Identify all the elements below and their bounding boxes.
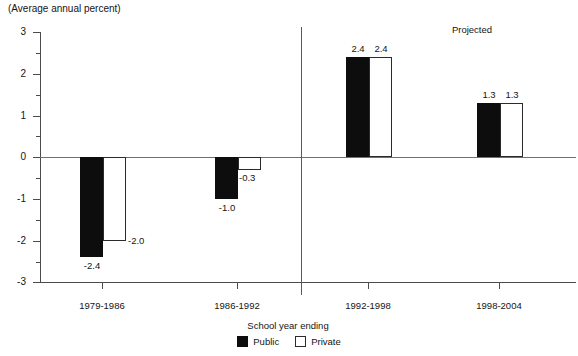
- y-tick-neg2: [33, 241, 40, 242]
- value-label-private-1992-1998: 2.4: [363, 43, 399, 54]
- bar-public-1992-1998[interactable]: [346, 57, 369, 157]
- y-tick-label-1: 1: [8, 110, 26, 121]
- y-tick-label-0: 0: [8, 151, 26, 162]
- x-tick-label-1986-1992: 1986-1992: [197, 300, 277, 311]
- x-tick-label-1979-1986: 1979-1986: [62, 300, 142, 311]
- y-tick-minor-0p5: [36, 136, 40, 137]
- y-tick-minor-neg0p5: [36, 178, 40, 179]
- y-tick-minor-1p5: [36, 95, 40, 96]
- chart-legend: Public Private: [0, 336, 578, 347]
- bar-public-1998-2004[interactable]: [477, 103, 500, 157]
- bar-private-1998-2004[interactable]: [500, 103, 523, 157]
- y-tick-neg3: [33, 282, 40, 283]
- chart-figure: (Average annual percent) 3 2 1 0 -1 -2 -…: [0, 0, 578, 356]
- y-tick-0: [33, 157, 40, 158]
- legend-label-private: Private: [311, 336, 341, 347]
- bar-private-1992-1998[interactable]: [369, 57, 392, 157]
- bar-private-1986-1992[interactable]: [238, 157, 261, 170]
- y-tick-3: [33, 32, 40, 33]
- y-tick-minor-neg2p5: [36, 262, 40, 263]
- x-tick-label-1992-1998: 1992-1998: [328, 300, 408, 311]
- y-tick-label-2: 2: [8, 68, 26, 79]
- y-tick-label-3: 3: [8, 26, 26, 37]
- plot-area: 3 2 1 0 -1 -2 -3 Projected -2.4 -2.0 -1.…: [0, 0, 578, 356]
- x-axis-title: School year ending: [228, 320, 348, 331]
- y-tick-2: [33, 74, 40, 75]
- y-tick-neg1: [33, 199, 40, 200]
- x-tick-1986-1992: [237, 283, 238, 289]
- y-tick-label-neg3: -3: [8, 276, 26, 287]
- projected-label: Projected: [440, 24, 504, 35]
- x-axis-line: [40, 282, 576, 283]
- bar-public-1986-1992[interactable]: [215, 157, 238, 199]
- y-tick-minor-neg1p5: [36, 220, 40, 221]
- y-tick-minor-2p5: [36, 53, 40, 54]
- value-label-public-1986-1992: -1.0: [209, 202, 245, 213]
- legend-label-public: Public: [253, 336, 279, 347]
- x-tick-1998-2004: [499, 283, 500, 289]
- x-tick-1979-1986: [102, 283, 103, 289]
- legend-item-public[interactable]: Public: [237, 336, 279, 347]
- value-label-private-1986-1992: -0.3: [239, 172, 269, 183]
- bar-public-1979-1986[interactable]: [80, 157, 103, 257]
- x-tick-1992-1998: [368, 283, 369, 289]
- legend-swatch-public-icon: [237, 336, 248, 347]
- projected-divider: [301, 27, 302, 295]
- y-tick-1: [33, 116, 40, 117]
- value-label-private-1998-2004: 1.3: [494, 89, 530, 100]
- legend-item-private[interactable]: Private: [295, 336, 341, 347]
- y-tick-label-neg2: -2: [8, 235, 26, 246]
- value-label-private-1979-1986: -2.0: [128, 235, 158, 246]
- x-tick-label-1998-2004: 1998-2004: [459, 300, 539, 311]
- bar-private-1979-1986[interactable]: [103, 157, 126, 241]
- y-tick-label-neg1: -1: [8, 193, 26, 204]
- legend-swatch-private-icon: [295, 336, 306, 347]
- value-label-public-1979-1986: -2.4: [74, 260, 110, 271]
